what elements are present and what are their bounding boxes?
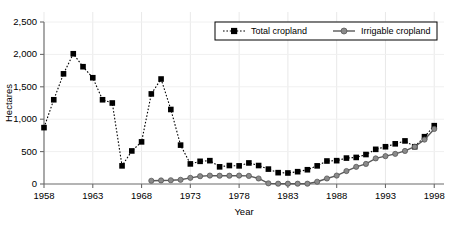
legend-label-total-cropland: Total cropland: [251, 26, 307, 36]
data-point-total-cropland: [383, 144, 389, 150]
data-point-total-cropland: [51, 97, 57, 103]
x-tick-label: 1963: [82, 190, 103, 201]
data-point-total-cropland: [158, 76, 164, 82]
y-tick-label: 2,000: [13, 48, 37, 59]
data-point-irrigable-cropland: [149, 178, 154, 183]
data-point-total-cropland: [70, 51, 76, 57]
data-point-irrigable-cropland: [315, 179, 320, 184]
chart-legend: Total croplandIrrigable cropland: [215, 22, 437, 40]
data-point-total-cropland: [207, 158, 213, 164]
y-tick-label: 1,000: [13, 113, 37, 124]
data-point-total-cropland: [363, 152, 369, 158]
data-point-irrigable-cropland: [217, 173, 222, 178]
x-axis-ticks: 195819631968197319781983198819931998: [33, 184, 444, 201]
data-point-total-cropland: [90, 75, 96, 81]
data-point-total-cropland: [344, 155, 350, 161]
data-point-total-cropland: [246, 160, 252, 166]
data-point-irrigable-cropland: [285, 181, 290, 186]
data-point-irrigable-cropland: [295, 181, 300, 186]
data-point-irrigable-cropland: [383, 154, 388, 159]
data-point-irrigable-cropland: [393, 151, 398, 156]
y-tick-label: 500: [21, 146, 37, 157]
data-point-irrigable-cropland: [188, 175, 193, 180]
data-point-irrigable-cropland: [373, 156, 378, 161]
data-point-total-cropland: [129, 148, 135, 154]
data-point-total-cropland: [80, 64, 86, 70]
data-point-total-cropland: [61, 71, 67, 77]
data-point-total-cropland: [139, 139, 145, 145]
data-point-total-cropland: [109, 100, 115, 106]
data-point-total-cropland: [295, 169, 301, 175]
data-point-total-cropland: [197, 159, 203, 165]
data-point-total-cropland: [178, 142, 184, 148]
data-point-irrigable-cropland: [158, 178, 163, 183]
y-tick-label: 2,500: [13, 16, 37, 27]
x-tick-label: 1968: [131, 190, 152, 201]
cropland-line-chart: 05001,0001,5002,0002,500 195819631968197…: [0, 0, 452, 233]
y-tick-label: 1,500: [13, 81, 37, 92]
data-point-irrigable-cropland: [412, 144, 417, 149]
data-point-irrigable-cropland: [432, 126, 437, 131]
data-point-total-cropland: [119, 163, 125, 169]
x-tick-label: 1983: [277, 190, 298, 201]
y-axis-title: Hectares: [3, 84, 14, 122]
data-point-total-cropland: [41, 125, 47, 131]
chart-container: 05001,0001,5002,0002,500 195819631968197…: [0, 0, 452, 233]
x-tick-label: 1993: [375, 190, 396, 201]
data-point-total-cropland: [266, 166, 272, 172]
data-point-irrigable-cropland: [344, 168, 349, 173]
x-tick-label: 1973: [180, 190, 201, 201]
series-line-2: [151, 129, 434, 184]
x-tick-label: 1958: [33, 190, 54, 201]
x-tick-label: 1978: [229, 190, 250, 201]
data-point-irrigable-cropland: [363, 161, 368, 166]
data-point-total-cropland: [275, 170, 281, 176]
x-tick-label: 1998: [424, 190, 445, 201]
horizontal-gridlines: [44, 22, 444, 152]
data-point-total-cropland: [188, 161, 194, 167]
data-point-irrigable-cropland: [227, 173, 232, 178]
y-tick-label: 0: [32, 178, 37, 189]
legend-swatch-marker-total: [231, 28, 237, 34]
data-point-total-cropland: [392, 141, 398, 147]
data-point-irrigable-cropland: [354, 164, 359, 169]
data-point-irrigable-cropland: [256, 176, 261, 181]
data-point-total-cropland: [168, 107, 174, 113]
data-point-total-cropland: [314, 163, 320, 169]
y-axis-ticks: 05001,0001,5002,0002,500: [13, 16, 44, 189]
data-point-irrigable-cropland: [402, 148, 407, 153]
data-point-irrigable-cropland: [266, 181, 271, 186]
data-point-total-cropland: [334, 158, 340, 164]
data-point-total-cropland: [402, 138, 408, 144]
data-point-irrigable-cropland: [198, 174, 203, 179]
data-point-irrigable-cropland: [237, 173, 242, 178]
data-point-total-cropland: [256, 163, 262, 169]
data-point-total-cropland: [324, 158, 330, 164]
data-point-total-cropland: [217, 164, 223, 170]
x-axis-title: Year: [234, 206, 253, 217]
data-point-total-cropland: [100, 97, 106, 103]
data-point-total-cropland: [373, 147, 379, 153]
data-point-irrigable-cropland: [422, 137, 427, 142]
data-point-irrigable-cropland: [246, 173, 251, 178]
data-point-irrigable-cropland: [334, 173, 339, 178]
data-point-irrigable-cropland: [168, 178, 173, 183]
data-point-total-cropland: [236, 163, 242, 169]
data-point-irrigable-cropland: [324, 176, 329, 181]
data-point-total-cropland: [353, 155, 359, 161]
data-point-total-cropland: [227, 163, 233, 169]
x-tick-label: 1988: [326, 190, 347, 201]
data-point-irrigable-cropland: [276, 181, 281, 186]
data-point-irrigable-cropland: [207, 173, 212, 178]
chart-axes: [44, 22, 444, 184]
data-point-total-cropland: [285, 170, 291, 176]
legend-swatch-marker-irrigable: [341, 28, 347, 34]
legend-label-irrigable-cropland: Irrigable cropland: [361, 26, 431, 36]
data-point-total-cropland: [305, 167, 311, 173]
data-point-irrigable-cropland: [305, 181, 310, 186]
data-point-irrigable-cropland: [178, 177, 183, 182]
data-point-total-cropland: [149, 91, 155, 97]
